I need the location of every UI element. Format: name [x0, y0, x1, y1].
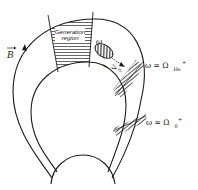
- o-resonance-label: ω = Ω 0 +: [146, 116, 182, 129]
- omega-label: ω: [96, 37, 102, 46]
- he-resonance-label: ω = Ω He +: [145, 59, 186, 72]
- generation-label-line2: region: [61, 34, 79, 41]
- o-label-sub: 0: [175, 123, 178, 129]
- o-resonance-band: [113, 114, 147, 136]
- emic-wave-diagram: Generation region B ω: [0, 0, 198, 190]
- earth-surface: [51, 155, 115, 184]
- he-label-sup: +: [182, 59, 186, 65]
- he-resonance-band: [113, 60, 144, 98]
- field-direction-arrow-icon: [22, 44, 27, 51]
- o-label-main: ω = Ω: [146, 118, 169, 127]
- he-label-sub: He: [174, 66, 181, 72]
- o-label-sup: +: [178, 116, 182, 122]
- he-label-main: ω = Ω: [145, 61, 168, 70]
- b-label: B: [6, 50, 14, 60]
- generation-region: Generation region: [48, 12, 93, 72]
- wave-packet: ω V g: [92, 37, 125, 73]
